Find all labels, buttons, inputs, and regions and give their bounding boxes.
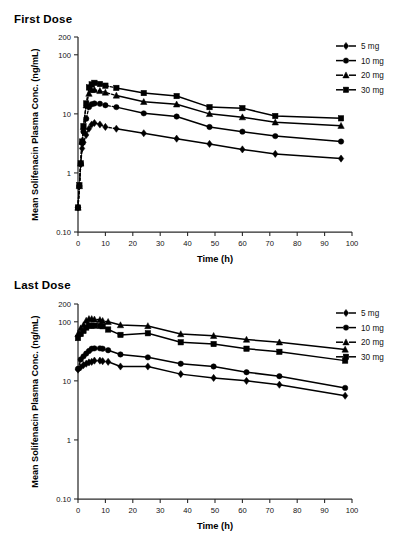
data-point-diamond: [97, 121, 102, 128]
data-point-circle: [145, 355, 150, 360]
x-tick-label: 80: [293, 506, 301, 515]
legend-item-20-mg: 20 mg: [336, 338, 384, 347]
data-point-diamond: [244, 377, 249, 384]
data-point-circle: [343, 58, 348, 63]
series-10-mg: [75, 346, 348, 391]
x-tick-label: 0: [76, 239, 80, 248]
data-point-circle: [118, 352, 123, 357]
data-point-circle: [114, 104, 119, 109]
data-point-square: [178, 340, 183, 345]
data-point-circle: [342, 385, 347, 390]
x-tick-label: 20: [129, 239, 137, 248]
legend-label: 20 mg: [361, 71, 384, 80]
legend-item-30-mg: 30 mg: [336, 86, 384, 95]
x-tick-label: 40: [183, 239, 191, 248]
chart-panel-first-dose: First Dose 0.101101002000102030405060708…: [0, 0, 419, 267]
data-point-diamond: [103, 123, 108, 130]
legend-item-10-mg: 10 mg: [336, 324, 384, 333]
x-tick-label: 50: [211, 239, 219, 248]
data-point-circle: [97, 101, 102, 106]
y-tick-label: 0.10: [56, 228, 71, 237]
data-point-diamond: [105, 358, 110, 365]
series-path-late: [116, 95, 341, 125]
data-point-circle: [105, 348, 110, 353]
y-tick-label: 100: [58, 318, 71, 327]
data-point-circle: [244, 370, 249, 375]
data-point-square: [174, 93, 179, 98]
data-point-circle: [100, 346, 105, 351]
y-axis-title: Mean Solifenacin Plasma Conc. (ng/mL): [30, 315, 40, 487]
data-point-square: [81, 123, 86, 128]
data-point-square: [273, 113, 278, 118]
y-tick-label: 200: [58, 300, 71, 309]
legend-label: 10 mg: [361, 57, 384, 66]
data-point-square: [92, 323, 97, 328]
x-tick-label: 0: [76, 506, 80, 515]
data-point-diamond: [141, 130, 146, 137]
data-point-square: [343, 87, 348, 92]
data-point-diamond: [211, 374, 216, 381]
legend-label: 30 mg: [361, 86, 384, 95]
data-point-circle: [338, 139, 343, 144]
data-point-circle: [211, 364, 216, 369]
data-point-diamond: [343, 309, 348, 316]
x-tick-label: 100: [346, 239, 359, 248]
data-point-circle: [103, 103, 108, 108]
x-tick-label: 70: [266, 506, 274, 515]
series-30-mg: [75, 323, 348, 363]
data-point-circle: [207, 124, 212, 129]
data-point-square: [79, 139, 84, 144]
data-point-square: [114, 85, 119, 90]
data-point-square: [100, 324, 105, 329]
data-point-square: [78, 161, 83, 166]
y-tick-label: 200: [58, 33, 71, 42]
data-point-square: [105, 327, 110, 332]
chart-svg-first-dose: 0.101101002000102030405060708090100Time …: [0, 0, 419, 267]
legend-item-5-mg: 5 mg: [336, 309, 380, 318]
data-point-diamond: [207, 140, 212, 147]
data-point-diamond: [114, 125, 119, 132]
data-point-square: [84, 101, 89, 106]
data-point-diamond: [338, 155, 343, 162]
chart-svg-last-dose: 0.101101002000102030405060708090100Time …: [0, 267, 419, 534]
x-tick-label: 20: [129, 506, 137, 515]
x-tick-label: 90: [320, 506, 328, 515]
legend-label: 5 mg: [361, 42, 380, 51]
legend-label: 10 mg: [361, 324, 384, 333]
x-tick-label: 80: [293, 239, 301, 248]
x-tick-label: 30: [156, 239, 164, 248]
data-point-circle: [92, 346, 97, 351]
legend-label: 20 mg: [361, 338, 384, 347]
legend-label: 30 mg: [361, 353, 384, 362]
x-axis-title: Time (h): [197, 521, 233, 531]
legend-item-20-mg: 20 mg: [336, 71, 384, 80]
data-point-diamond: [174, 135, 179, 142]
data-point-circle: [343, 325, 348, 330]
y-axis-title: Mean Solifenacin Plasma Conc. (ng/mL): [30, 48, 40, 220]
x-tick-label: 70: [266, 239, 274, 248]
series-path-late: [108, 362, 345, 396]
legend-item-5-mg: 5 mg: [336, 42, 380, 51]
y-tick-label: 0.10: [56, 495, 71, 504]
plot-axes: [78, 37, 352, 232]
data-point-square: [92, 80, 97, 85]
x-axis-title: Time (h): [197, 254, 233, 264]
data-point-diamond: [273, 150, 278, 157]
data-point-circle: [178, 361, 183, 366]
data-point-diamond: [277, 381, 282, 388]
legend-label: 5 mg: [361, 309, 380, 318]
y-tick-label: 100: [58, 51, 71, 60]
x-tick-label: 30: [156, 506, 164, 515]
data-point-diamond: [342, 392, 347, 399]
data-point-square: [103, 83, 108, 88]
y-tick-label: 1: [67, 169, 71, 178]
x-tick-label: 60: [238, 239, 246, 248]
data-point-square: [77, 182, 82, 187]
data-point-diamond: [178, 371, 183, 378]
data-point-diamond: [118, 363, 123, 370]
data-point-square: [240, 105, 245, 110]
data-point-square: [244, 346, 249, 351]
data-point-square: [97, 81, 102, 86]
x-tick-label: 90: [320, 239, 328, 248]
y-tick-label: 1: [67, 436, 71, 445]
